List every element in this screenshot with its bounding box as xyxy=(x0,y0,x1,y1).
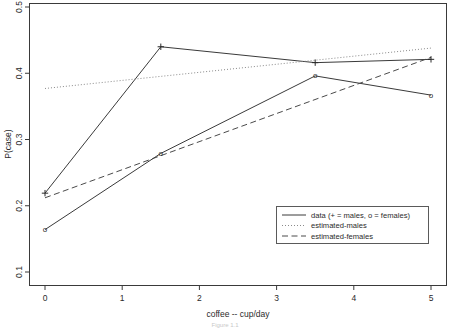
legend-label: estimated-males xyxy=(311,221,367,230)
data-point-female: o xyxy=(43,225,48,234)
y-tick-label: 0.4 xyxy=(14,67,24,79)
y-axis-title: P(case) xyxy=(3,129,13,158)
x-tick-label: 5 xyxy=(429,293,434,303)
data-point-female: o xyxy=(429,91,434,100)
y-tick-label: 0.2 xyxy=(14,200,24,212)
x-tick-label: 4 xyxy=(351,293,356,303)
data-point-female: o xyxy=(159,149,164,158)
data-point-female: o xyxy=(313,71,318,80)
legend-label: estimated-females xyxy=(311,232,373,241)
coffee-pcase-line-chart: 0.10.20.30.40.5 P(case) 012345 coffee --… xyxy=(0,0,451,328)
chart-page: 0.10.20.30.40.5 P(case) 012345 coffee --… xyxy=(0,0,451,328)
x-tick-label: 2 xyxy=(197,293,202,303)
y-tick-label: 0.1 xyxy=(14,266,24,278)
x-tick-label: 3 xyxy=(274,293,279,303)
chart-legend[interactable]: data (+ = males, o = females)estimated-m… xyxy=(277,207,429,244)
x-axis-title: coffee -- cup/day xyxy=(206,309,270,319)
legend-label: data (+ = males, o = females) xyxy=(311,211,410,220)
y-tick-label: 0.5 xyxy=(14,1,24,13)
figure-caption: Figure 1.1 xyxy=(211,322,239,328)
x-tick-label: 0 xyxy=(43,293,48,303)
x-tick-label: 1 xyxy=(120,293,125,303)
y-tick-label: 0.3 xyxy=(14,133,24,145)
